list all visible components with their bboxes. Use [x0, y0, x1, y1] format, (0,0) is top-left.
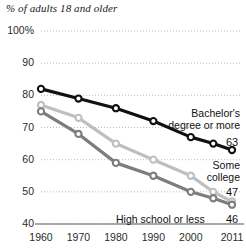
data-point-marker: [38, 102, 44, 108]
data-point-marker: [150, 157, 156, 163]
end-value-bachelors: 63: [226, 136, 238, 148]
chart-container: % of adults 18 and older 100%90807060504…: [0, 0, 246, 252]
x-axis-tick-label: 1980: [96, 231, 136, 243]
data-point-marker: [229, 202, 235, 208]
data-point-marker: [113, 105, 119, 111]
series-label-high-school: High school or less: [116, 214, 205, 226]
x-axis-tick-label: 2000: [171, 231, 211, 243]
series-label-bachelors-line1: Bachelor's: [148, 108, 240, 120]
series-label-some-college-line2: college: [158, 172, 240, 184]
y-axis-tick-label: 70: [0, 121, 34, 133]
y-axis-tick-label: 60: [0, 153, 34, 165]
series-label-some-college-line1: Some: [158, 160, 240, 172]
x-axis-tick-label: 1960: [21, 231, 61, 243]
data-point-marker: [113, 160, 119, 166]
data-point-marker: [75, 131, 81, 137]
series-lines: [38, 86, 235, 208]
data-point-marker: [75, 115, 81, 121]
y-axis-tick-label: 80: [0, 88, 34, 100]
data-point-marker: [188, 189, 194, 195]
data-point-marker: [210, 140, 216, 146]
y-axis-tick-label: 50: [0, 185, 34, 197]
data-point-marker: [75, 95, 81, 101]
data-point-marker: [210, 195, 216, 201]
series-label-bachelors-line2: degree or more: [128, 120, 240, 132]
x-axis-tick-label: 1990: [133, 231, 173, 243]
end-value-high-school: 46: [226, 213, 238, 225]
x-axis-tick-label: 2011: [212, 231, 246, 243]
data-point-marker: [150, 173, 156, 179]
y-axis-tick-label: 90: [0, 56, 34, 68]
data-point-marker: [210, 189, 216, 195]
data-point-marker: [38, 86, 44, 92]
y-axis-tick-label: 40: [0, 217, 34, 229]
data-point-marker: [38, 108, 44, 114]
y-axis-tick-label: 100%: [0, 24, 34, 36]
x-axis-tick-label: 1970: [58, 231, 98, 243]
data-point-marker: [188, 134, 194, 140]
end-value-some-college: 47: [226, 186, 238, 198]
data-point-marker: [113, 140, 119, 146]
